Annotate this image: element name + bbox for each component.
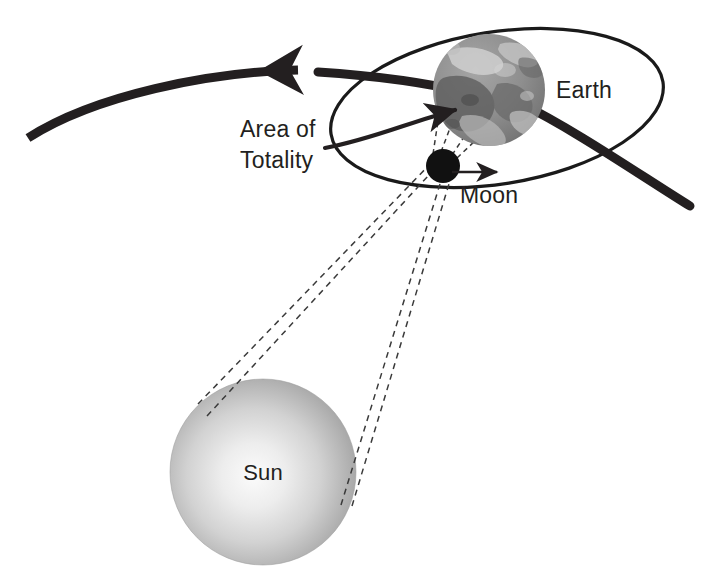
area-of-totality-label-line2: Totality: [240, 147, 313, 173]
area-of-totality-label-line1: Area of: [240, 116, 316, 142]
earth-label: Earth: [556, 77, 612, 103]
moon-label: Moon: [460, 182, 518, 208]
moon-body: [426, 149, 460, 183]
diagram-canvas: Sun: [0, 0, 701, 577]
solar-eclipse-diagram: Sun: [0, 0, 701, 577]
earth-body: [433, 34, 545, 148]
sun-label: Sun: [243, 460, 283, 485]
